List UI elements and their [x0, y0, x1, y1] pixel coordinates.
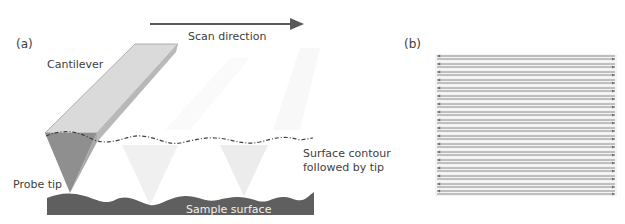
ghost-tip-2 — [220, 145, 268, 196]
scan-direction-label: Scan direction — [188, 30, 266, 43]
ghost-cantilever-2 — [273, 48, 320, 130]
panel-a-label: (a) — [16, 37, 33, 51]
cantilever-label: Cantilever — [47, 58, 104, 71]
surface-contour-label-2: followed by tip — [303, 161, 384, 174]
ghost-cantilever-1 — [165, 58, 250, 130]
probe-tip-label: Probe tip — [13, 178, 62, 191]
panel-b: (b) — [404, 37, 617, 196]
sample-surface — [47, 192, 314, 215]
sample-surface-label: Sample surface — [186, 203, 272, 216]
afm-diagram: (a) Scan direction Cantilever Probe tip … — [0, 0, 625, 224]
ghost-tip-1 — [122, 145, 178, 205]
panel-b-label: (b) — [404, 37, 421, 51]
panel-a: (a) Scan direction Cantilever Probe tip … — [13, 24, 391, 216]
surface-contour-label-1: Surface contour — [303, 147, 391, 160]
